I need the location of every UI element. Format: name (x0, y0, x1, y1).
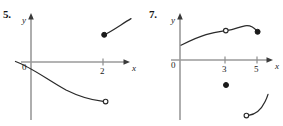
exercise-number-5: 5. (3, 9, 11, 20)
figure-5: 5. y x 0 2 (0, 0, 142, 126)
curve-lower-branch (16, 62, 104, 102)
x-axis-arrow-icon (124, 59, 131, 65)
exercise-number-7: 7. (149, 9, 157, 20)
x-tick-label-3: 3 (222, 65, 227, 74)
filled-dot-marker-curve-end (255, 29, 260, 34)
y-axis-arrow-icon (177, 13, 183, 20)
y-axis-label-7: y (171, 16, 175, 25)
y-axis-7 (177, 13, 183, 120)
x-axis-label-7: x (275, 62, 279, 71)
x-axis-label-5: x (132, 64, 136, 73)
x-axis-arrow-icon (267, 57, 274, 63)
x-axis-5 (21, 59, 130, 66)
x-axis-7 (171, 57, 273, 64)
origin-label-7: 0 (171, 61, 176, 70)
figure-7: 7. y x 0 3 5 (141, 0, 283, 126)
curve-main-branch-right (228, 26, 257, 32)
x-tick-label-5: 5 (254, 65, 259, 74)
y-axis-5 (28, 13, 34, 120)
y-axis-arrow-icon (28, 13, 34, 20)
figure-7-graph (141, 0, 283, 126)
filled-dot-marker (102, 32, 107, 37)
curve-upper-branch (106, 19, 132, 35)
open-circle-marker (103, 99, 108, 104)
filled-dot-marker-isolated (224, 83, 229, 88)
open-circle-marker-lower-right (244, 113, 249, 118)
open-circle-marker-on-curve (224, 28, 229, 33)
curve-main-branch-left (181, 31, 224, 45)
origin-label-5: 0 (22, 63, 27, 72)
figure-sheet: 5. y x 0 2 (0, 0, 283, 126)
y-axis-label-5: y (22, 16, 26, 25)
x-tick-label-2: 2 (100, 67, 105, 76)
curve-lower-right-branch (249, 94, 269, 115)
